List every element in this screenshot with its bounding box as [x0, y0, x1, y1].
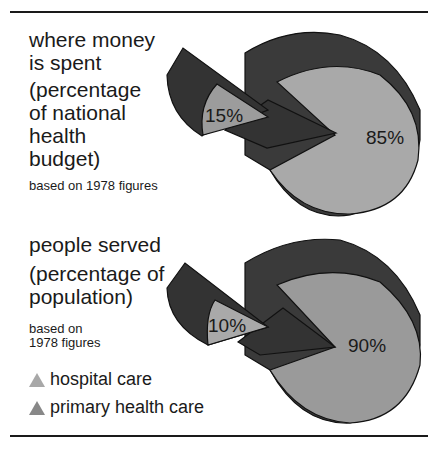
bottom-small-label: 10% — [208, 315, 246, 336]
pie-charts: 85% 15% 90% 10% — [0, 0, 441, 451]
top-pie-big-slice — [225, 32, 420, 215]
top-big-label: 85% — [366, 127, 404, 148]
bottom-big-label: 90% — [348, 335, 386, 356]
bottom-pie-big-slice — [238, 239, 421, 423]
bottom-rule — [10, 435, 428, 437]
top-small-label: 15% — [205, 105, 243, 126]
